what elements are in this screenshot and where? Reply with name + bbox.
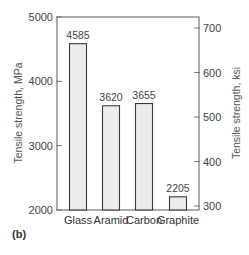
bar-aramid <box>103 106 120 210</box>
right-tick-label: 300 <box>203 200 221 212</box>
category-label: Glass <box>64 214 93 226</box>
left-tick-label: 2000 <box>29 204 53 216</box>
value-label: 3620 <box>99 91 123 103</box>
left-axis-title: Tensile strength, MPa <box>12 62 24 163</box>
bars: 4585362036552205 <box>66 29 190 210</box>
bar-chart: 2000300040005000 300400500600700 4585362… <box>0 0 249 255</box>
right-axis-title: Tensile strength, ksi <box>230 67 242 159</box>
right-tick-label: 600 <box>203 67 221 79</box>
right-tick-label: 500 <box>203 111 221 123</box>
value-label: 3655 <box>132 89 156 101</box>
right-y-axis: 300400500600700 <box>194 22 221 212</box>
left-tick-label: 5000 <box>29 11 53 23</box>
left-tick-label: 3000 <box>29 140 53 152</box>
value-label: 2205 <box>166 182 190 194</box>
value-label: 4585 <box>66 29 90 41</box>
x-axis-category-labels: GlassAramidCarbonGraphite <box>64 214 199 226</box>
right-tick-label: 700 <box>203 22 221 34</box>
category-label: Graphite <box>157 214 199 226</box>
bar-glass <box>70 44 87 210</box>
bar-carbon <box>136 104 153 210</box>
panel-label: (b) <box>12 228 26 240</box>
category-label: Aramid <box>94 214 129 226</box>
bar-graphite <box>170 197 187 210</box>
right-tick-label: 400 <box>203 156 221 168</box>
left-tick-label: 4000 <box>29 75 53 87</box>
